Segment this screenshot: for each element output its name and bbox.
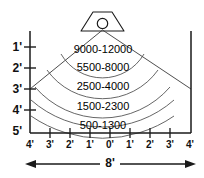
width-label-0: 0' [102, 140, 118, 150]
height-label-5: 5' [2, 125, 22, 137]
lifting-hanger [81, 12, 124, 31]
hanger-hole-icon [97, 18, 107, 28]
zone-label-2: 5500-8000 [64, 62, 142, 73]
zone-label-1: 9000-12000 [64, 44, 142, 55]
height-label-2: 2' [2, 62, 22, 74]
width-label-n1: 1' [82, 140, 98, 150]
width-label-n2: 2' [62, 140, 78, 150]
diagram-canvas: 1' 2' 3' 4' 5' 4' 3' 2' 1' 0' 1' 2' 3' 4… [0, 0, 204, 178]
zone-label-4: 1500-2300 [64, 101, 142, 112]
height-label-4: 4' [2, 104, 22, 116]
width-label-p2: 2' [142, 140, 158, 150]
width-label-n4: 4' [22, 140, 38, 150]
dimension-arrow-right-icon [185, 160, 196, 168]
zone-label-5: 500-1300 [64, 120, 142, 131]
overall-width-label: 8' [100, 157, 120, 169]
dimension-arrow-left-icon [25, 160, 36, 168]
height-label-3: 3' [2, 83, 22, 95]
width-label-p3: 3' [162, 140, 178, 150]
zone-label-3: 2500-4000 [64, 81, 142, 92]
width-label-n3: 3' [42, 140, 58, 150]
height-label-1: 1' [2, 41, 22, 53]
width-label-p4: 4' [182, 140, 198, 150]
width-label-p1: 1' [122, 140, 138, 150]
